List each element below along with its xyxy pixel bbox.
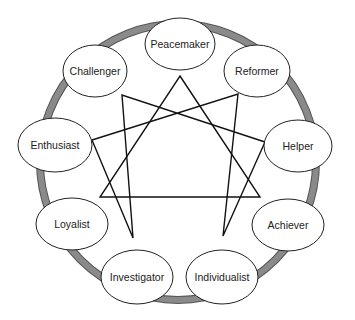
node-investigator: Investigator bbox=[101, 250, 173, 304]
connecting-lines bbox=[92, 76, 265, 238]
type-nodes: PeacemakerReformerHelperAchieverIndividu… bbox=[18, 18, 332, 304]
node-enthusiast: Enthusiast bbox=[18, 118, 92, 172]
node-label: Peacemaker bbox=[151, 38, 210, 50]
node-helper: Helper bbox=[264, 120, 332, 172]
node-label: Enthusiast bbox=[30, 139, 79, 151]
node-loyalist: Loyalist bbox=[36, 198, 108, 250]
node-label: Loyalist bbox=[54, 218, 90, 230]
node-label: Helper bbox=[283, 140, 314, 152]
node-label: Challenger bbox=[70, 65, 121, 77]
node-individualist: Individualist bbox=[186, 250, 258, 304]
node-reformer: Reformer bbox=[224, 45, 290, 97]
node-label: Investigator bbox=[110, 271, 165, 283]
node-label: Individualist bbox=[195, 271, 250, 283]
node-label: Reformer bbox=[235, 65, 279, 77]
node-label: Achiever bbox=[268, 219, 309, 231]
node-challenger: Challenger bbox=[63, 45, 127, 97]
enneagram-diagram: PeacemakerReformerHelperAchieverIndividu… bbox=[0, 0, 355, 320]
node-achiever: Achiever bbox=[252, 199, 324, 251]
node-peacemaker: Peacemaker bbox=[145, 18, 215, 70]
